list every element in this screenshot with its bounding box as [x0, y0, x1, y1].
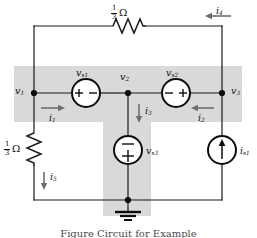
voltage-source-vs1	[72, 79, 100, 107]
resistor-left-value: 1 3 Ω	[4, 141, 20, 157]
resistor-top-value: 1 3 Ω	[111, 5, 127, 21]
node-dot-ground	[125, 197, 131, 203]
figure-caption: Figure Circuit for Example	[0, 228, 257, 238]
resistor-left-unit: Ω	[12, 144, 20, 154]
current-arrow-i5	[41, 172, 47, 190]
resistor-top-unit: Ω	[119, 8, 127, 18]
node-label-v2: v2	[120, 72, 129, 83]
source-label-vs2: vs2	[166, 68, 178, 79]
resistor-left	[27, 133, 41, 166]
node-dot-v1	[31, 90, 37, 96]
resistor-top	[113, 19, 146, 33]
voltage-source-vs3	[114, 136, 142, 164]
current-source-is1	[208, 136, 236, 164]
node-dot-v3	[219, 90, 225, 96]
current-label-i5: i5	[50, 172, 57, 183]
current-label-i2: i2	[198, 113, 205, 124]
node-dot-v2	[125, 90, 131, 96]
node-label-v3: v3	[231, 86, 240, 97]
node-label-v1: v1	[15, 86, 24, 97]
source-label-is1: is1	[240, 146, 250, 157]
source-label-vs1: vs1	[76, 68, 88, 79]
figure-canvas: v1 v2 v3 vs1 vs2 vs3 is1 i1 i2 i3 i4 i5 …	[0, 0, 257, 238]
current-label-i4: i4	[216, 6, 223, 17]
resistor-top-fraction: 1 3	[111, 5, 117, 21]
resistor-left-fraction: 1 3	[4, 141, 10, 157]
voltage-source-vs2	[162, 79, 190, 107]
current-label-i1: i1	[49, 113, 56, 124]
current-label-i3: i3	[145, 106, 152, 117]
circuit-schematic	[0, 0, 257, 238]
source-label-vs3: vs3	[146, 146, 158, 157]
